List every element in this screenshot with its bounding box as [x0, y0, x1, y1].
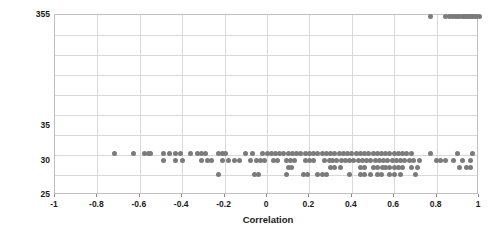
- x-tick-mark: [351, 194, 352, 197]
- x-tick-mark: [266, 194, 267, 197]
- data-point: [248, 158, 253, 163]
- data-point: [415, 165, 420, 170]
- data-point: [161, 158, 166, 163]
- x-tick-label: -0.2: [204, 199, 244, 209]
- x-tick-mark: [96, 194, 97, 197]
- plot-area: [54, 14, 478, 194]
- data-point: [409, 165, 414, 170]
- y-tick-label: 25: [6, 189, 50, 199]
- data-point: [284, 172, 289, 177]
- gridline-vertical: [309, 15, 310, 193]
- x-tick-label: -0.4: [161, 199, 201, 209]
- data-point: [180, 158, 185, 163]
- gridline-horizontal: [55, 75, 477, 76]
- gridline-vertical: [182, 15, 183, 193]
- data-point: [322, 158, 327, 163]
- data-point: [451, 158, 456, 163]
- x-tick-mark: [54, 194, 55, 197]
- data-point: [311, 158, 316, 163]
- data-point: [338, 165, 343, 170]
- scatter-chart: Number of elements 253035355 -1-0.8-0.6-…: [0, 0, 488, 235]
- gridline-vertical: [97, 15, 98, 193]
- data-point: [292, 158, 297, 163]
- data-point: [457, 165, 462, 170]
- data-point: [199, 158, 204, 163]
- data-point: [332, 165, 337, 170]
- x-axis-tick-labels: -1-0.8-0.6-0.4-0.200.20.40.60.81: [54, 197, 478, 211]
- x-tick-mark: [224, 194, 225, 197]
- data-point: [216, 172, 221, 177]
- data-point: [362, 165, 367, 170]
- data-point: [400, 165, 405, 170]
- data-point: [460, 158, 465, 163]
- data-point: [398, 172, 403, 177]
- x-tick-mark: [181, 194, 182, 197]
- x-tick-mark: [393, 194, 394, 197]
- gridline-horizontal: [55, 115, 477, 116]
- data-point: [468, 165, 473, 170]
- data-point: [173, 158, 178, 163]
- data-point: [468, 158, 473, 163]
- x-tick-mark: [139, 194, 140, 197]
- data-point: [209, 158, 214, 163]
- data-point: [368, 172, 373, 177]
- y-axis-tick-labels: 253035355: [0, 14, 50, 194]
- x-tick-label: 0.6: [373, 199, 413, 209]
- data-point: [477, 14, 482, 19]
- gridline-horizontal: [55, 55, 477, 56]
- y-tick-label: 30: [6, 155, 50, 165]
- x-tick-label: 0.8: [416, 199, 456, 209]
- data-point: [237, 158, 242, 163]
- x-tick-label: 0.4: [331, 199, 371, 209]
- x-tick-label: -0.6: [119, 199, 159, 209]
- data-point: [362, 172, 367, 177]
- x-tick-mark: [478, 194, 479, 197]
- data-point: [413, 172, 418, 177]
- x-tick-mark: [308, 194, 309, 197]
- data-point: [256, 172, 261, 177]
- y-tick-label: 355: [6, 9, 50, 19]
- gridline-horizontal: [55, 95, 477, 96]
- data-point: [375, 165, 380, 170]
- data-point: [226, 158, 231, 163]
- data-point: [324, 172, 329, 177]
- x-tick-label: 1: [458, 199, 488, 209]
- gridline-vertical: [352, 15, 353, 193]
- y-tick-label: 35: [6, 120, 50, 130]
- data-point: [392, 172, 397, 177]
- x-tick-label: -0.8: [76, 199, 116, 209]
- data-point: [443, 158, 448, 163]
- data-point: [289, 165, 294, 170]
- x-tick-mark: [436, 194, 437, 197]
- x-tick-label: 0: [246, 199, 286, 209]
- data-point: [411, 158, 416, 163]
- data-point: [379, 172, 384, 177]
- gridline-vertical: [225, 15, 226, 193]
- data-point: [417, 158, 422, 163]
- gridline-horizontal: [55, 135, 477, 136]
- gridline-horizontal: [55, 35, 477, 36]
- gridline-vertical: [437, 15, 438, 193]
- gridline-vertical: [267, 15, 268, 193]
- x-tick-label: -1: [34, 199, 74, 209]
- data-point: [428, 14, 433, 19]
- data-point: [232, 158, 237, 163]
- data-point: [305, 172, 310, 177]
- x-axis-title: Correlation: [48, 214, 488, 225]
- x-tick-label: 0.2: [288, 199, 328, 209]
- data-point: [275, 158, 280, 163]
- gridline-vertical: [140, 15, 141, 193]
